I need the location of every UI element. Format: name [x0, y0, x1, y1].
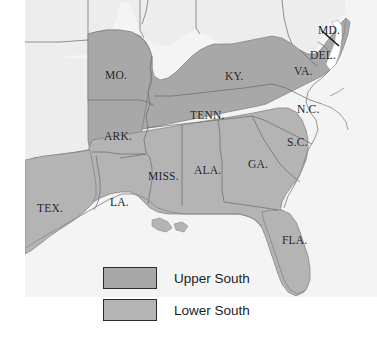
state-label-tennessee: TENN.: [190, 110, 225, 122]
state-label-arkansas: ARK.: [104, 131, 132, 143]
state-label-georgia: GA.: [248, 159, 268, 171]
map-of-upper-and-lower-south: MO. KY. VA. MD. DEL. N.C. TENN. ARK. S.C…: [0, 0, 377, 354]
state-label-south-carolina: S.C.: [287, 137, 308, 149]
state-label-maryland: MD.: [318, 25, 340, 37]
legend-label-upper-south: Upper South: [174, 271, 250, 286]
state-label-kentucky: KY.: [225, 71, 244, 83]
legend-entry-lower-south: Lower South: [103, 298, 250, 322]
legend-label-lower-south: Lower South: [174, 303, 250, 318]
state-label-north-carolina: N.C.: [297, 104, 320, 116]
state-label-alabama: ALA.: [194, 165, 221, 177]
state-label-mississippi: MISS.: [148, 171, 179, 183]
map-body: [25, 0, 377, 297]
state-label-texas: TEX.: [37, 203, 63, 215]
unshaded-plains-region: [25, 58, 90, 160]
state-label-florida: FLA.: [282, 235, 307, 247]
legend-swatch-lower-south: [103, 299, 157, 321]
state-label-missouri: MO.: [105, 70, 127, 82]
map-legend: Upper South Lower South: [103, 266, 283, 328]
state-label-virginia: VA.: [294, 66, 313, 78]
state-label-delaware: DEL.: [310, 50, 336, 62]
legend-entry-upper-south: Upper South: [103, 266, 250, 290]
legend-swatch-upper-south: [103, 267, 157, 289]
state-label-louisiana: LA.: [110, 197, 129, 209]
